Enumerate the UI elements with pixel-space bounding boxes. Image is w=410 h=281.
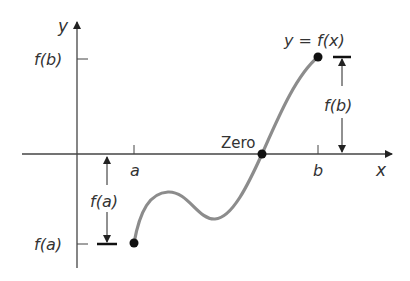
tick-fa-label: f(a) (34, 235, 62, 254)
curve-label: y = f(x) (283, 31, 345, 50)
ivt-diagram: x y a b f(b) f(a) y = f(x) Zero f(b) f(a… (0, 0, 410, 281)
fb-measure-label: f(b) (324, 96, 352, 115)
tick-a-label: a (130, 161, 140, 180)
fa-measure-label: f(a) (90, 192, 118, 211)
x-axis-label: x (375, 160, 387, 180)
tick-fb-label: f(b) (34, 50, 62, 69)
y-axis-label: y (57, 16, 69, 36)
point-a-fa (130, 239, 139, 248)
zero-label: Zero (221, 134, 256, 152)
point-b-fb (314, 53, 323, 62)
tick-b-label: b (313, 161, 323, 180)
point-zero (258, 150, 267, 159)
